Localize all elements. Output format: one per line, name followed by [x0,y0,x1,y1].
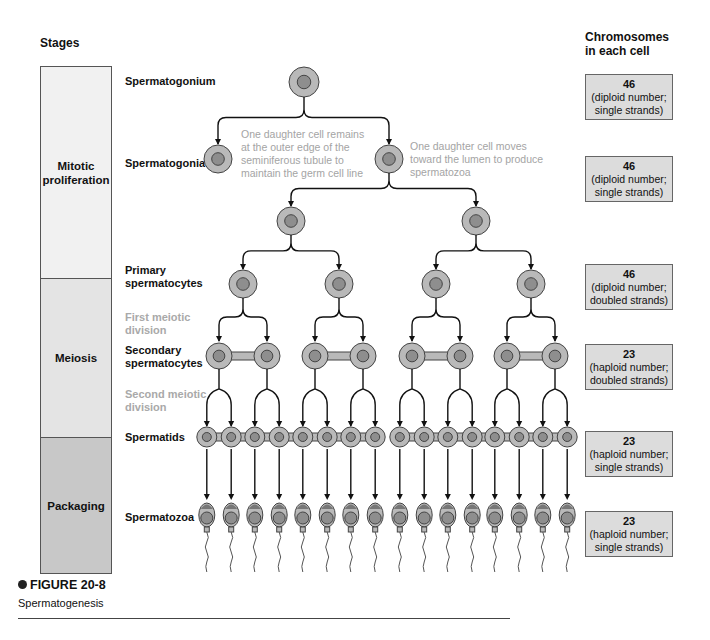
midpiece-icon [300,527,305,532]
arrowhead-icon [552,336,558,342]
arrowhead-icon [397,421,403,427]
nucleus-icon [501,350,513,362]
arrowhead-icon [300,421,306,427]
arrowhead-icon [372,494,378,500]
nucleus-icon [489,512,501,524]
nucleus-icon [561,512,573,524]
arrowhead-icon [397,494,403,500]
nucleus-icon [443,433,452,442]
nucleus-icon [357,350,369,362]
nucleus-icon [298,433,307,442]
nucleus-icon [537,512,549,524]
flagellum-icon [326,532,329,572]
nucleus-icon [261,350,273,362]
midpiece-icon [277,527,282,532]
arrowhead-icon [300,494,306,500]
branch-arrow [351,369,375,426]
flagellum-icon [278,532,281,572]
nucleus-icon [538,433,547,442]
arrowhead-icon [324,494,330,500]
nucleus-icon [346,433,355,442]
arrowhead-icon [386,139,392,145]
branch-arrow [412,298,460,341]
arrowhead-icon [216,336,222,342]
branch-arrow [303,369,327,426]
nucleus-icon [515,433,524,442]
flagellum-icon [301,532,304,572]
arrowhead-icon [564,421,570,427]
nucleus-icon [490,433,499,442]
nucleus-icon [297,75,311,89]
nucleus-icon [297,512,309,524]
branch-arrow [448,369,472,426]
flagellum-icon [541,532,544,572]
arrowhead-icon [276,421,282,427]
flagellum-icon [349,532,352,572]
nucleus-icon [420,433,429,442]
nucleus-icon [321,512,333,524]
arrowhead-icon [492,494,498,500]
flagellum-icon [230,532,233,572]
flagellum-icon [446,532,449,572]
arrowhead-icon [240,264,246,270]
nucleus-icon [227,433,236,442]
arrowhead-icon [469,421,475,427]
arrowhead-icon [421,494,427,500]
arrowhead-icon [516,494,522,500]
figure-number: FIGURE 20-8 [30,578,106,592]
nucleus-icon [345,512,357,524]
arrowhead-icon [564,494,570,500]
branch-arrow [255,369,279,426]
nucleus-icon [249,512,261,524]
arrowhead-icon [348,421,354,427]
nucleus-icon [395,433,404,442]
arrowhead-icon [457,336,463,342]
arrowhead-icon [204,421,210,427]
nucleus-icon [549,350,561,362]
midpiece-icon [348,527,353,532]
spermatogenesis-tree [0,0,710,640]
arrowhead-icon [324,421,330,427]
arrowhead-icon [312,336,318,342]
nucleus-icon [430,278,443,291]
figure-title: FIGURE 20-8 [18,578,106,592]
midpiece-icon [204,527,209,532]
midpiece-icon [373,527,378,532]
nucleus-icon [470,215,483,228]
nucleus-icon [466,512,478,524]
arrowhead-icon [228,494,234,500]
nucleus-icon [418,512,430,524]
arrowhead-icon [409,336,415,342]
flagellum-icon [518,532,521,572]
branch-arrow [243,235,339,269]
flagellum-icon [493,532,496,572]
nucleus-icon [250,433,259,442]
arrowhead-icon [469,494,475,500]
branch-arrow [315,298,363,341]
nucleus-icon [525,278,538,291]
flagellum-icon [423,532,426,572]
nucleus-icon [563,433,572,442]
figure-caption: Spermatogenesis [18,597,104,609]
nucleus-icon [369,512,381,524]
midpiece-icon [540,527,545,532]
flagellum-icon [471,532,474,572]
arrowhead-icon [348,494,354,500]
nucleus-icon [275,433,284,442]
arrowhead-icon [360,336,366,342]
midpiece-icon [517,527,522,532]
midpiece-icon [422,527,427,532]
nucleus-icon [333,278,346,291]
branch-arrow [495,369,519,426]
arrowhead-icon [336,264,342,270]
nucleus-icon [225,512,237,524]
nucleus-icon [371,433,380,442]
midpiece-icon [470,527,475,532]
arrowhead-icon [288,201,294,207]
midpiece-icon [325,527,330,532]
bullet-icon [18,580,27,589]
arrowhead-icon [445,494,451,500]
arrowhead-icon [445,421,451,427]
branch-arrow [400,369,424,426]
nucleus-icon [454,350,466,362]
